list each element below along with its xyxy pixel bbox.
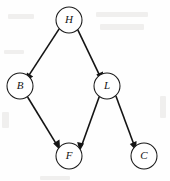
edge-b-to-f-line: [28, 97, 57, 145]
node-f[interactable]: F: [56, 143, 82, 169]
edge-h-to-b-line: [28, 29, 59, 77]
node-l[interactable]: L: [94, 73, 120, 99]
graph-svg: H B L F C: [0, 0, 170, 181]
node-c-label: C: [140, 149, 148, 161]
edge-l-to-f-line: [82, 97, 100, 146]
edge-l-to-c-line: [116, 96, 134, 145]
edge-l-to-f: [77, 97, 99, 152]
node-h[interactable]: H: [56, 7, 82, 33]
edge-l-to-c: [116, 96, 137, 151]
node-b-label: B: [17, 79, 24, 91]
node-f-label: F: [65, 149, 73, 161]
node-c[interactable]: C: [131, 143, 157, 169]
node-h-label: H: [64, 13, 74, 25]
edge-b-to-f: [28, 97, 61, 150]
node-l-label: L: [103, 79, 110, 91]
edge-h-to-l-line: [78, 30, 100, 77]
edge-h-to-b: [25, 29, 60, 82]
diagram-canvas: H B L F C: [0, 0, 170, 181]
node-b[interactable]: B: [7, 73, 33, 99]
edge-h-to-l: [78, 30, 103, 82]
